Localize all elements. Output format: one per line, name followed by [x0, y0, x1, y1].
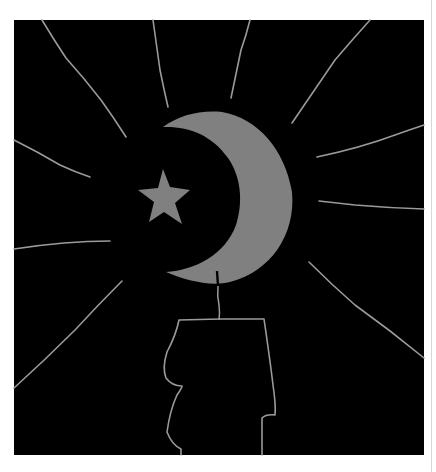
black-panel	[14, 20, 424, 455]
artwork-canvas	[0, 0, 436, 472]
wick-cut	[217, 271, 218, 286]
